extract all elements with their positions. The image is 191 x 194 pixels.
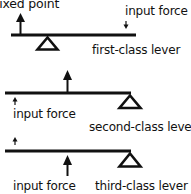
fulcrum-triangle-icon [120, 96, 141, 109]
input-force-label: input force [13, 108, 76, 121]
output-force-arrow-icon [63, 70, 72, 92]
fulcrum-triangle-icon [38, 38, 58, 50]
lever-graphics [0, 0, 191, 194]
output-force-arrow-icon [16, 13, 25, 34]
input-force-label: input force [125, 5, 188, 18]
fixed-point-label: fixed point [0, 0, 59, 10]
input-force-arrow-icon [13, 97, 18, 105]
input-force-arrow-icon [124, 21, 129, 29]
input-force-label: input force [13, 180, 76, 193]
lever-classes-diagram: fixed point input force first-class leve… [0, 0, 191, 194]
fulcrum-triangle-icon [120, 154, 141, 167]
third-class-lever-graphic [5, 137, 141, 176]
second-class-lever-graphic [5, 70, 141, 108]
lever-beam [5, 92, 131, 95]
lever-beam [11, 34, 136, 37]
input-force-arrow-icon [63, 155, 72, 176]
lever-class-label: second-class lever [89, 121, 191, 134]
lever-class-label: third-class lever [95, 180, 188, 193]
lever-class-label: first-class lever [92, 44, 180, 57]
output-force-arrow-icon [13, 137, 18, 145]
lever-beam [5, 150, 131, 153]
